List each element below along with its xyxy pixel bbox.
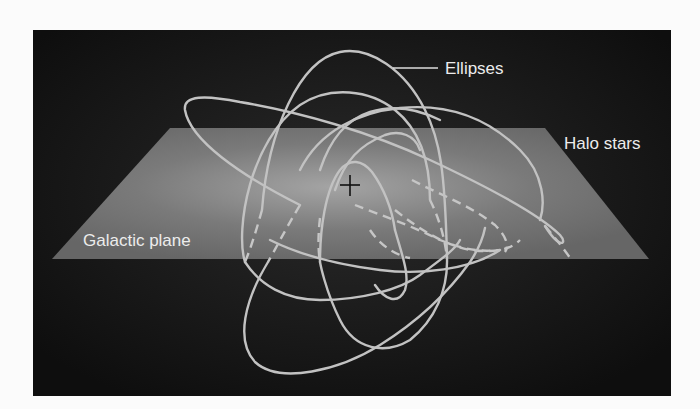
galactic-plane-label: Galactic plane — [83, 231, 191, 250]
ellipses-label: Ellipses — [445, 59, 504, 78]
halo-orbits-diagram: Ellipses Halo stars Galactic plane — [0, 0, 700, 409]
halo-stars-label: Halo stars — [564, 134, 641, 153]
